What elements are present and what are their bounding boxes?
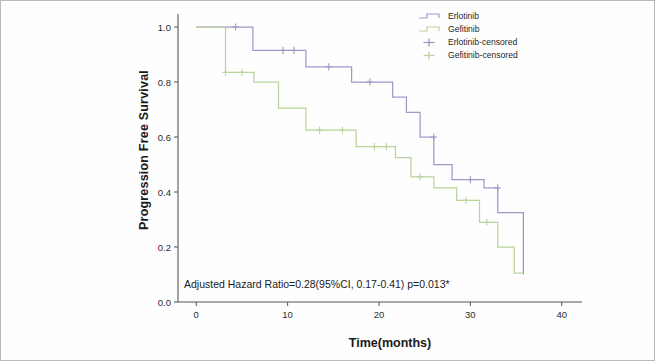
legend-label: Erlotinib-censored: [448, 37, 517, 48]
legend-label: Erlotinib: [448, 11, 479, 22]
y-tick-label: 0.6: [158, 132, 171, 143]
x-tick-label: 0: [194, 309, 199, 320]
x-tick-label: 30: [465, 309, 476, 320]
y-tick-label: 1.0: [158, 22, 171, 33]
legend-step-glyph: [419, 14, 439, 18]
legend-plus-icon: [418, 50, 444, 61]
x-axis-label: Time(months): [349, 336, 431, 350]
legend-label: Gefitinib-censored: [448, 50, 518, 61]
y-tick-label: 0.8: [158, 77, 171, 88]
legend-item: Gefitinib: [418, 24, 518, 36]
hazard-ratio-annotation: Adjusted Hazard Ratio=0.28(95%CI, 0.17-0…: [184, 278, 450, 290]
y-tick-label: 0.4: [158, 187, 171, 198]
y-tick-label: 0.0: [158, 297, 171, 308]
legend-item: Gefitinib-censored: [418, 50, 518, 62]
x-tick-label: 10: [282, 309, 293, 320]
legend-step-icon: [418, 11, 444, 22]
legend-label: Gefitinib: [448, 24, 480, 35]
kaplan-meier-chart: Progression Free Survival Time(months) 0…: [0, 0, 655, 361]
x-tick-label: 20: [374, 309, 385, 320]
legend-item: Erlotinib: [418, 11, 518, 23]
y-tick-label: 0.2: [158, 242, 171, 253]
plot-background: [178, 14, 580, 302]
plot-canvas: [0, 0, 655, 361]
legend-step-glyph: [419, 27, 439, 31]
y-axis-label: Progression Free Survival: [137, 70, 151, 230]
chart-legend: ErlotinibGefitinibErlotinib-censoredGefi…: [418, 11, 518, 63]
legend-step-icon: [418, 24, 444, 35]
legend-item: Erlotinib-censored: [418, 37, 518, 49]
x-tick-label: 40: [556, 309, 567, 320]
legend-plus-icon: [418, 37, 444, 48]
